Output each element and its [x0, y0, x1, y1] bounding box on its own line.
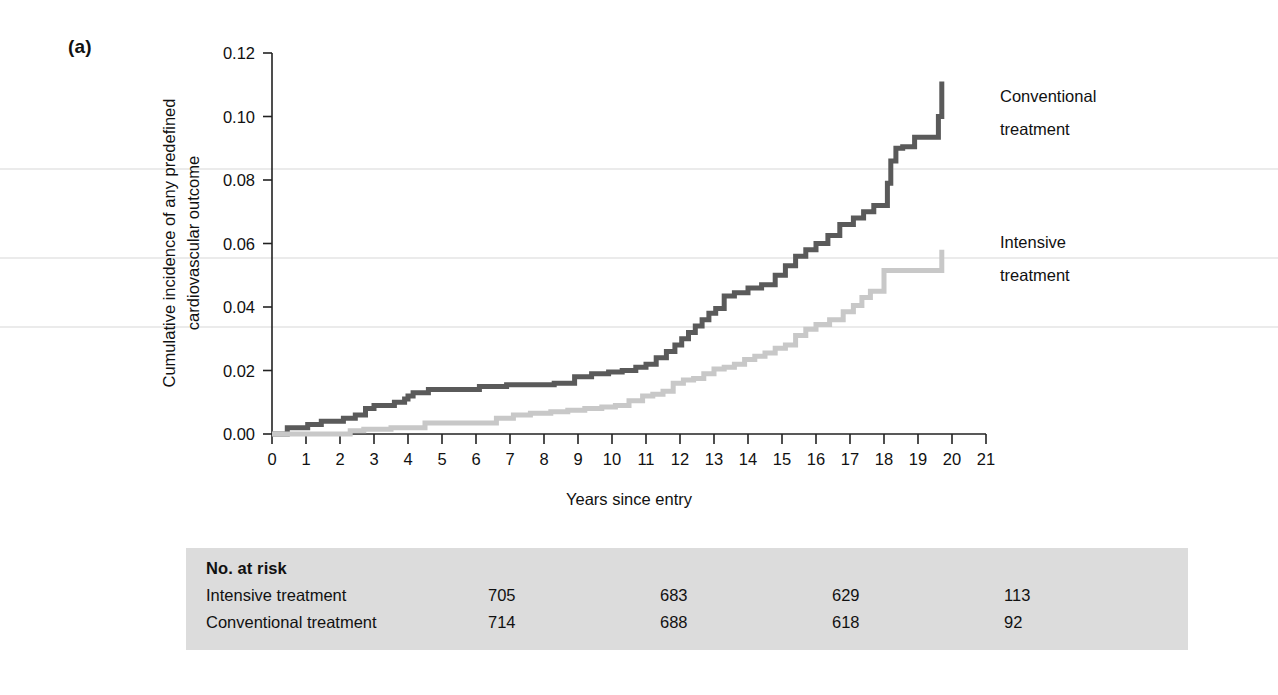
x-axis-tick-label: 21 [977, 450, 995, 468]
x-axis-tick-label: 17 [841, 450, 859, 468]
cumulative-incidence-chart: 0.000.020.040.060.080.100.12 01234567891… [0, 0, 1278, 540]
x-axis-tick-label: 15 [773, 450, 791, 468]
y-axis-tick-label: 0.10 [223, 108, 255, 126]
x-axis-tick-label: 16 [807, 450, 825, 468]
y-axis-tick-label: 0.06 [223, 235, 255, 253]
series-annotation-intensive-line-1: Intensive [1000, 233, 1066, 251]
risk-value-conventional-0: 714 [488, 613, 660, 632]
y-axis-tick-label: 0.12 [223, 44, 255, 62]
x-axis-ticks [272, 434, 986, 444]
x-axis-tick-label: 10 [603, 450, 621, 468]
y-axis-title-line-2: cardiovascular outcome [184, 156, 202, 330]
x-axis-tick-label: 0 [267, 450, 276, 468]
y-axis-tick-label: 0.08 [223, 171, 255, 189]
x-axis-tick-label: 13 [705, 450, 723, 468]
risk-value-conventional-2: 618 [832, 613, 1004, 632]
series-annotation-conventional-line-2: treatment [1000, 120, 1070, 138]
y-axis-title-line-1: Cumulative incidence of any predefined [160, 99, 178, 388]
risk-row-label-intensive: Intensive treatment [206, 586, 488, 605]
y-axis-ticks [263, 53, 272, 434]
figure-panel-a: (a) 0.000.020.040.060.080.100.12 0123456… [0, 0, 1278, 695]
x-axis-tick-label: 3 [369, 450, 378, 468]
risk-table-title-row: No. at risk [186, 559, 1188, 586]
series-annotation-intensive-line-2: treatment [1000, 266, 1070, 284]
x-axis-tick-label: 2 [335, 450, 344, 468]
risk-value-conventional-3: 92 [1004, 613, 1174, 632]
x-axis-tick-label: 5 [437, 450, 446, 468]
risk-value-intensive-1: 683 [660, 586, 832, 605]
series-annotation-conventional-line-1: Conventional [1000, 87, 1096, 105]
x-axis-tick-label: 8 [539, 450, 548, 468]
risk-value-conventional-1: 688 [660, 613, 832, 632]
x-axis-tick-label: 6 [471, 450, 480, 468]
y-axis-tick-label: 0.00 [223, 425, 255, 443]
risk-value-intensive-3: 113 [1004, 586, 1174, 605]
risk-table-title: No. at risk [206, 559, 287, 578]
x-axis-tick-label: 18 [875, 450, 893, 468]
x-axis-tick-label: 12 [671, 450, 689, 468]
x-axis-tick-label: 19 [909, 450, 927, 468]
x-axis-title: Years since entry [566, 490, 693, 508]
x-axis-tick-label: 7 [505, 450, 514, 468]
x-axis-tick-label: 4 [403, 450, 412, 468]
x-axis-tick-label: 14 [739, 450, 757, 468]
x-axis-tick-labels: 0123456789101112131415161718192021 [267, 450, 995, 468]
x-axis-tick-label: 11 [637, 450, 654, 468]
y-axis-tick-labels: 0.000.020.040.060.080.100.12 [223, 44, 255, 443]
x-axis-tick-label: 9 [573, 450, 582, 468]
y-axis-tick-label: 0.02 [223, 362, 255, 380]
risk-value-intensive-0: 705 [488, 586, 660, 605]
risk-row-label-conventional: Conventional treatment [206, 613, 488, 632]
risk-table-row-conventional: Conventional treatment 714 688 618 92 [186, 613, 1188, 640]
x-axis-tick-label: 1 [301, 450, 310, 468]
number-at-risk-table: No. at risk Intensive treatment 705 683 … [186, 548, 1188, 650]
risk-value-intensive-2: 629 [832, 586, 1004, 605]
x-axis-tick-label: 20 [943, 450, 961, 468]
risk-table-row-intensive: Intensive treatment 705 683 629 113 [186, 586, 1188, 613]
y-axis-tick-label: 0.04 [223, 298, 255, 316]
